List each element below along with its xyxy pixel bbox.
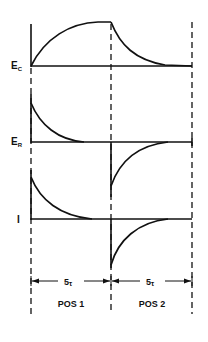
ec-charge-curve: [31, 22, 111, 66]
pos1-duration-label: 5τ: [64, 277, 73, 287]
pos2-duration-label: 5τ: [146, 277, 155, 287]
er-positive-decay: [31, 103, 84, 142]
arrowhead-right-icon: [103, 279, 110, 284]
i-negative-decay: [111, 219, 168, 265]
pos1-label: POS 1: [58, 299, 85, 309]
trace-i: I: [17, 170, 192, 268]
i-positive-decay: [31, 177, 92, 219]
i-label: I: [17, 214, 20, 225]
rc-timing-diagram: EC ER I 5τ POS 1: [0, 0, 208, 342]
trace-ec: EC: [11, 22, 192, 72]
ec-label: EC: [11, 60, 23, 72]
arrowhead-left-icon: [32, 279, 39, 284]
er-label: ER: [11, 136, 23, 148]
interval-dimension-pos2: 5τ POS 2: [111, 276, 192, 309]
arrowhead-right-icon: [184, 279, 191, 284]
interval-dimension-pos1: 5τ POS 1: [31, 276, 110, 309]
arrowhead-left-icon: [112, 279, 119, 284]
trace-er: ER: [11, 94, 192, 197]
pos2-label: POS 2: [139, 299, 166, 309]
er-negative-decay: [111, 142, 168, 186]
ec-discharge-curve: [111, 22, 192, 66]
